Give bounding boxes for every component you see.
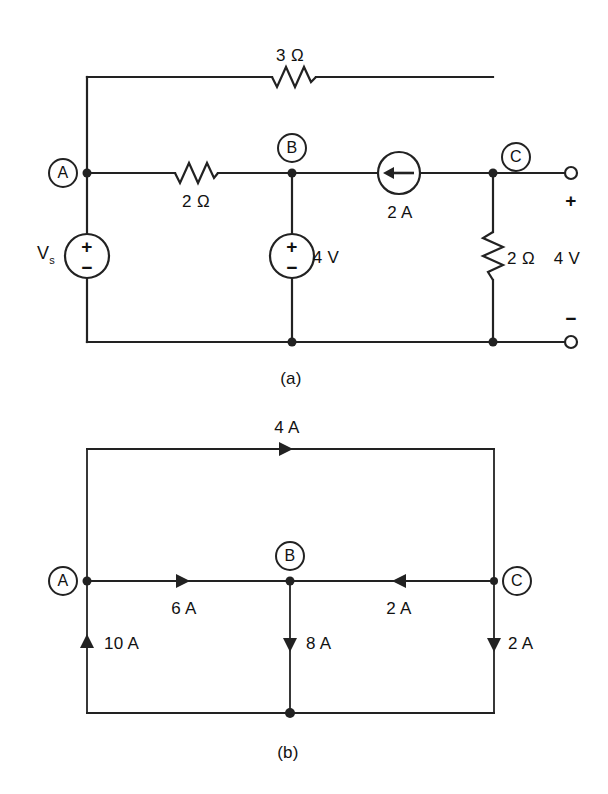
junction-dot — [288, 169, 297, 178]
junction-dot — [83, 169, 92, 178]
junction-dot — [489, 338, 498, 347]
label-current-cb: 2 A — [386, 600, 411, 617]
node-label-a-b: A — [58, 573, 69, 589]
junction-dot — [489, 169, 498, 178]
label-current-left: 10 A — [104, 635, 139, 652]
node-label-b: B — [287, 140, 298, 156]
junction-dot — [286, 577, 295, 586]
label-voltage-source-4v: 4 V — [313, 249, 339, 266]
label-current-source-2a: 2 A — [387, 204, 412, 221]
output-terminal-positive — [565, 167, 577, 179]
junction-dot — [285, 708, 295, 718]
2-ohm-load-resistor-symbol — [483, 232, 503, 280]
label-current-top: 4 A — [274, 419, 299, 436]
label-voltage-source-vs: Vs — [37, 244, 55, 266]
output-minus-sign: − — [565, 309, 576, 328]
circuit-figure: 3 Ω 2 Ω 2 Ω 4 V 2 A 4 V Vs + − + − + − A… — [0, 0, 608, 794]
output-terminal-negative — [565, 336, 577, 348]
source4v-minus-sign: − — [286, 258, 297, 277]
current-arrow-middle-icon — [283, 638, 297, 652]
current-arrow-right-icon — [487, 638, 501, 652]
vs-subscript: s — [49, 254, 55, 266]
output-plus-sign: + — [565, 191, 576, 210]
junction-dot — [83, 577, 92, 586]
junction-dot — [288, 338, 297, 347]
label-current-right: 2 A — [508, 635, 533, 652]
current-arrow-ab-icon — [176, 574, 190, 588]
vs-plus-sign: + — [81, 237, 92, 256]
label-3-ohm-resistor: 3 Ω — [276, 47, 304, 64]
caption-b: (b) — [277, 744, 299, 761]
current-arrow-top-icon — [279, 442, 293, 456]
label-current-middle: 8 A — [306, 635, 331, 652]
current-arrow-left-icon — [80, 634, 94, 648]
label-2-ohm-load-resistor: 2 Ω — [507, 250, 535, 267]
source4v-plus-sign: + — [286, 237, 297, 256]
current-arrow-cb-icon — [392, 574, 406, 588]
caption-a: (a) — [280, 370, 302, 387]
node-label-c-b: C — [511, 573, 523, 589]
vs-minus-sign: − — [81, 258, 92, 277]
circuit-drawing — [0, 0, 608, 794]
circuit-a-wires — [87, 77, 566, 342]
node-label-c: C — [510, 149, 522, 165]
node-label-b-b: B — [285, 548, 296, 564]
label-output-voltage: 4 V — [554, 250, 580, 267]
2-ohm-series-resistor-symbol — [175, 163, 218, 183]
label-2-ohm-series-resistor: 2 Ω — [182, 193, 210, 210]
label-current-ab: 6 A — [171, 600, 196, 617]
3-ohm-resistor-symbol — [272, 67, 316, 87]
junction-dot — [490, 577, 498, 585]
vs-main: V — [37, 243, 49, 263]
node-label-a: A — [58, 165, 69, 181]
